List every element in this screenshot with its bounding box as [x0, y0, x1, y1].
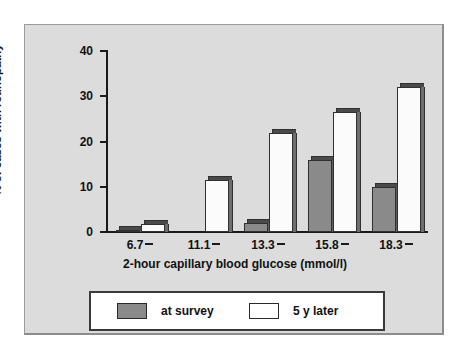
- x-tick-dash: [145, 243, 153, 245]
- legend-item-at-survey: at survey: [117, 303, 214, 319]
- bar-face: [333, 112, 357, 232]
- bar-groups: [108, 51, 428, 232]
- bar-face: [372, 187, 396, 232]
- y-tick-label: 0: [53, 226, 93, 238]
- y-tick: [100, 231, 108, 233]
- legend: at survey 5 y later: [89, 291, 385, 331]
- x-tick-label: 15.8: [315, 238, 338, 252]
- bar-5-y-later: [141, 224, 165, 232]
- x-tick-group: 15.8: [300, 235, 364, 253]
- x-tick-label: 18.3: [379, 238, 402, 252]
- bar-face: [244, 223, 268, 232]
- legend-swatch-at-survey: [117, 303, 147, 319]
- plot-area: % of cases with retinopathy 010203040 6.…: [25, 25, 445, 255]
- bar-side-shadow: [421, 87, 425, 232]
- bar-top-cap: [336, 108, 360, 112]
- y-tick-label: 30: [53, 90, 93, 102]
- bar-side-shadow: [293, 133, 297, 232]
- y-axis-label-text: % of cases with retinopathy: [0, 44, 3, 195]
- y-tick-label: 40: [53, 45, 93, 57]
- bar-face: [205, 180, 229, 232]
- bar-side-shadow: [165, 224, 169, 232]
- bar-top-cap: [272, 129, 296, 133]
- bar-at-survey: [372, 187, 396, 232]
- x-tick-label: 11.1: [188, 238, 211, 252]
- bar-group: [364, 51, 428, 232]
- x-tick-label: 6.7: [127, 238, 144, 252]
- x-tick-label: 13.3: [251, 238, 274, 252]
- y-tick: [100, 95, 108, 97]
- legend-label-5-y-later: 5 y later: [293, 304, 338, 318]
- bar-top-cap: [311, 156, 335, 160]
- bar-at-survey: [116, 230, 140, 232]
- bar-face: [308, 160, 332, 232]
- bar-5-y-later: [397, 87, 421, 232]
- bar-side-shadow: [229, 180, 233, 232]
- bar-at-survey: [308, 160, 332, 232]
- figure-frame: % of cases with retinopathy 010203040 6.…: [24, 24, 444, 335]
- bar-face: [141, 224, 165, 232]
- bar-group: [108, 51, 172, 232]
- x-tick-container: 6.711.113.315.818.3: [108, 235, 428, 257]
- bar-group: [172, 51, 236, 232]
- bar-top-cap: [247, 219, 271, 223]
- x-tick-group: 11.1: [172, 235, 236, 253]
- bar-group: [300, 51, 364, 232]
- x-axis-title: 2-hour capillary blood glucose (mmol/l): [25, 257, 445, 271]
- legend-swatch-5-y-later: [249, 303, 279, 319]
- bar-at-survey: [244, 223, 268, 232]
- y-tick-label: 20: [53, 136, 93, 148]
- bar-top-cap: [375, 183, 399, 187]
- x-tick-dash: [212, 243, 220, 245]
- x-tick-dash: [277, 243, 285, 245]
- y-tick: [100, 50, 108, 52]
- y-tick: [100, 186, 108, 188]
- bar-5-y-later: [269, 133, 293, 232]
- bar-face: [116, 230, 140, 232]
- x-tick-group: 13.3: [236, 235, 300, 253]
- bar-group: [236, 51, 300, 232]
- bar-side-shadow: [357, 112, 361, 232]
- legend-item-5-y-later: 5 y later: [249, 303, 338, 319]
- x-tick-dash: [405, 243, 413, 245]
- bar-top-cap: [208, 176, 232, 180]
- x-tick-dash: [341, 243, 349, 245]
- figure: % of cases with retinopathy 010203040 6.…: [0, 0, 468, 362]
- bar-face: [397, 87, 421, 232]
- bar-5-y-later: [205, 180, 229, 232]
- legend-label-at-survey: at survey: [161, 304, 214, 318]
- bar-top-cap: [119, 226, 143, 230]
- bar-face: [269, 133, 293, 232]
- x-tick-group: 18.3: [364, 235, 428, 253]
- y-axis-label: % of cases with retinopathy: [0, 25, 5, 215]
- y-tick-label: 10: [53, 181, 93, 193]
- y-tick: [100, 141, 108, 143]
- x-tick-group: 6.7: [108, 235, 172, 253]
- bar-top-cap: [400, 83, 424, 87]
- bar-5-y-later: [333, 112, 357, 232]
- bar-top-cap: [144, 220, 168, 224]
